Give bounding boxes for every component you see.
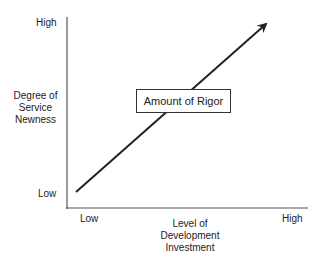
x-axis-title-line: Investment	[150, 242, 230, 254]
x-axis-title-line: Development	[150, 230, 230, 242]
y-axis-title-line: Degree of	[8, 90, 63, 102]
rigor-annotation-label: Amount of Rigor	[144, 95, 223, 107]
x-low-label: Low	[80, 213, 98, 225]
y-axis-title: Degree of Service Newness	[8, 90, 63, 126]
x-axis-title: Level of Development Investment	[150, 218, 230, 254]
x-axis-title-line: Level of	[150, 218, 230, 230]
y-low-label: Low	[38, 188, 56, 200]
x-high-label: High	[282, 213, 303, 225]
y-high-label: High	[36, 17, 57, 29]
rigor-annotation-box: Amount of Rigor	[136, 89, 231, 113]
y-axis-title-line: Newness	[8, 114, 63, 126]
y-axis-title-line: Service	[8, 102, 63, 114]
